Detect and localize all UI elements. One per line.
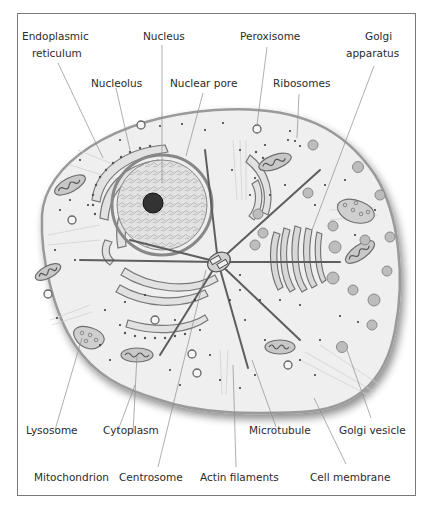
label-actin-filaments: Actin filaments [200, 471, 279, 483]
cell-diagram: Endoplasmic reticulum Nucleus Peroxisome… [0, 0, 433, 508]
label-nucleolus: Nucleolus [91, 77, 142, 89]
label-endoplasmic-reticulum-1: Endoplasmic [22, 30, 89, 42]
label-nucleus: Nucleus [143, 30, 185, 42]
nucleolus [143, 193, 163, 213]
label-endoplasmic-reticulum-2: reticulum [32, 47, 82, 59]
label-golgi-vesicle: Golgi vesicle [339, 424, 406, 436]
label-mitochondrion: Mitochondrion [34, 471, 109, 483]
label-golgi-apparatus-1: Golgi [365, 30, 392, 42]
label-golgi-apparatus-2: apparatus [346, 47, 399, 59]
label-peroxisome: Peroxisome [240, 30, 300, 42]
label-lysosome: Lysosome [26, 424, 78, 436]
label-nuclear-pore: Nuclear pore [170, 77, 237, 89]
label-cell-membrane: Cell membrane [310, 471, 390, 483]
label-centrosome: Centrosome [119, 471, 183, 483]
label-cytoplasm: Cytoplasm [103, 424, 159, 436]
label-ribosomes: Ribosomes [273, 77, 330, 89]
label-microtubule: Microtubule [249, 424, 311, 436]
